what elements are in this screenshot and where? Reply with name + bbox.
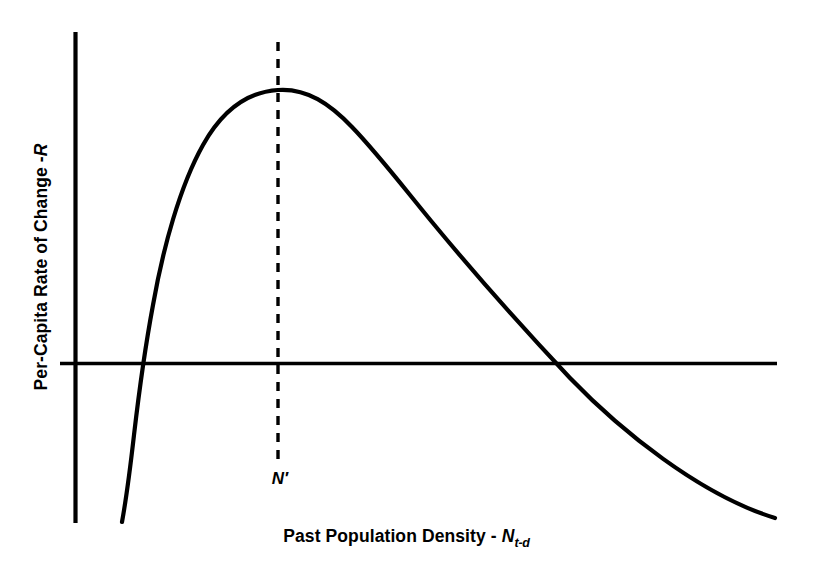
equilibrium-annotation-label: N′	[250, 470, 310, 487]
chart-plot-area	[0, 0, 813, 566]
chart-figure: Per-Capita Rate of Change - R Past Popul…	[0, 0, 813, 566]
x-axis-title-variable: N	[502, 526, 515, 546]
x-axis-title-text: Past Population Density -	[283, 526, 501, 546]
per-capita-rate-curve	[122, 90, 775, 522]
y-axis-title-variable: R	[33, 144, 51, 157]
y-axis-title-text: Per-Capita Rate of Change -	[33, 156, 51, 390]
x-axis-title-subscript: t-d	[514, 536, 529, 550]
y-axis-title: Per-Capita Rate of Change - R	[25, 57, 59, 477]
x-axis-title: Past Population Density - Nt-d	[0, 527, 813, 550]
